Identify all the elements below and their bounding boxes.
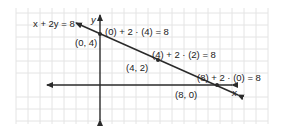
check-label-8-0: (8) + 2 · (0) = 8 (197, 72, 261, 83)
x-axis-label: x (231, 87, 238, 98)
y-axis-label: y (90, 14, 97, 25)
point-0-4 (98, 32, 102, 36)
check-label-4-2: (4) + 2 · (2) = 8 (152, 49, 216, 60)
point-label-8-0: (8, 0) (175, 89, 197, 100)
coordinate-plane-diagram: x + 2y = 8 y x (0, 4) (0) + 2 · (4) = 8 … (0, 0, 283, 132)
point-8-0 (215, 83, 219, 87)
point-label-0-4: (0, 4) (75, 37, 97, 48)
check-label-0-4: (0) + 2 · (4) = 8 (105, 26, 169, 37)
equation-label: x + 2y = 8 (33, 18, 75, 29)
point-label-4-2: (4, 2) (126, 62, 148, 73)
